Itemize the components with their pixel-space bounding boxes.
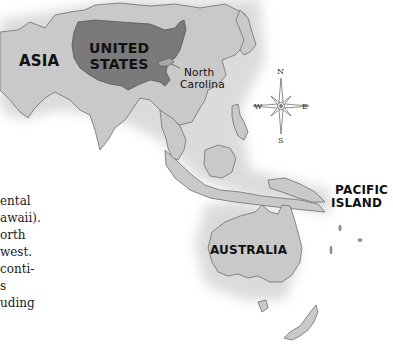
compass-west-label: W <box>254 102 262 111</box>
new-zealand-landmass <box>284 305 318 340</box>
asia-label: ASIA <box>19 54 59 69</box>
body-text-line: s <box>0 278 41 295</box>
north-carolina-label: North Carolina <box>180 66 225 90</box>
australia-label: AUSTRALIA <box>210 244 287 256</box>
pacific-island-label-line2: ISLAND <box>331 197 388 210</box>
pacific-islands <box>330 225 362 254</box>
body-text-line: ental <box>0 193 41 210</box>
north-carolina-label-line2: Carolina <box>180 78 225 90</box>
compass-south-label: S <box>278 136 283 145</box>
body-text-fragment: ental awaii). orth west. conti- s uding <box>0 193 41 312</box>
body-text-line: uding <box>0 295 41 312</box>
body-text-line: west. <box>0 244 41 261</box>
tasmania-landmass <box>258 300 268 312</box>
united-states-label: UNITED STATES <box>89 40 149 72</box>
compass-north-label: N <box>277 67 284 76</box>
united-states-label-line1: UNITED <box>89 40 149 56</box>
pacific-island-label: PACIFIC ISLAND <box>331 184 388 210</box>
body-text-line: orth <box>0 227 41 244</box>
united-states-label-line2: STATES <box>89 56 149 72</box>
body-text-line: conti- <box>0 261 41 278</box>
body-text-line: awaii). <box>0 210 41 227</box>
north-carolina-label-line1: North <box>180 66 225 78</box>
compass-east-label: E <box>302 102 308 111</box>
